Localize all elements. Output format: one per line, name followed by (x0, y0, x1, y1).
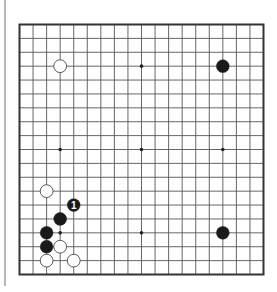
stone-disc (216, 226, 229, 239)
black-stone[interactable] (40, 240, 53, 253)
black-stone[interactable] (216, 226, 229, 239)
star-point (58, 231, 62, 235)
star-point (58, 148, 62, 152)
stone-disc (54, 240, 67, 253)
star-point (140, 148, 144, 152)
star-point (221, 148, 225, 152)
black-stone[interactable] (216, 60, 229, 73)
star-point (140, 231, 144, 235)
stone-disc (67, 254, 80, 267)
stone-disc (40, 226, 53, 239)
white-stone[interactable] (67, 254, 80, 267)
white-stone[interactable] (54, 240, 67, 253)
star-point (140, 64, 144, 68)
black-stone[interactable] (54, 213, 67, 226)
move-number-label: 1 (71, 200, 77, 211)
go-board[interactable]: 1 (0, 0, 277, 292)
stone-disc (54, 213, 67, 226)
black-stone[interactable] (40, 226, 53, 239)
stone-disc (40, 185, 53, 198)
white-stone[interactable] (40, 254, 53, 267)
stone-disc (40, 254, 53, 267)
stone-disc (216, 60, 229, 73)
black-stone[interactable]: 1 (67, 199, 80, 212)
stone-disc (40, 240, 53, 253)
white-stone[interactable] (54, 60, 67, 73)
white-stone[interactable] (40, 185, 53, 198)
stone-disc (54, 60, 67, 73)
